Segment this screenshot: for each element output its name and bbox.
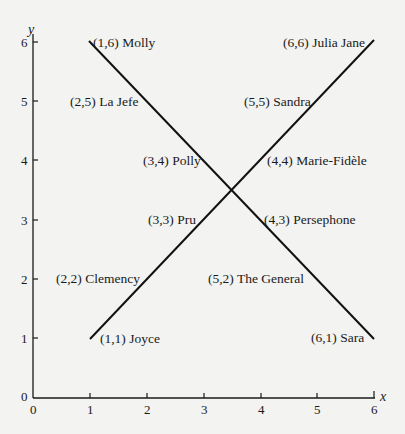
x-tick-4: 4 xyxy=(258,402,265,417)
label-persephone: (4,3) Persephone xyxy=(264,212,355,227)
point-labels-ascending: (1,1) Joyce (2,2) Clemency (3,3) Pru (4,… xyxy=(56,35,367,346)
point-labels-descending: (1,6) Molly (2,5) La Jefe (3,4) Polly (4… xyxy=(70,35,364,345)
x-tick-labels: 0 1 2 3 4 5 6 xyxy=(30,402,378,417)
label-the-general: (5,2) The General xyxy=(208,271,304,286)
y-tick-2: 2 xyxy=(21,272,28,287)
x-tick-5: 5 xyxy=(314,402,321,417)
label-sara: (6,1) Sara xyxy=(311,330,364,345)
y-tick-5: 5 xyxy=(21,94,28,109)
label-joyce: (1,1) Joyce xyxy=(100,331,160,346)
label-sandra: (5,5) Sandra xyxy=(244,94,311,109)
x-tick-3: 3 xyxy=(201,402,208,417)
x-tick-1: 1 xyxy=(87,402,94,417)
label-clemency: (2,2) Clemency xyxy=(56,271,140,286)
x-ticks xyxy=(90,391,374,398)
y-tick-4: 4 xyxy=(21,153,28,168)
x-tick-6: 6 xyxy=(371,402,378,417)
y-tick-labels: 6 5 4 3 2 1 0 xyxy=(21,35,28,404)
label-marie-fidele: (4,4) Marie-Fidèle xyxy=(267,153,367,168)
label-julia-jane: (6,6) Julia Jane xyxy=(283,35,365,50)
label-pru: (3,3) Pru xyxy=(148,212,196,227)
y-tick-3: 3 xyxy=(21,213,28,228)
x-axis-label: x xyxy=(379,389,387,404)
coordinate-chart: y x 6 5 4 3 2 1 0 0 1 2 3 4 5 6 (1,6) Mo… xyxy=(0,0,405,434)
y-tick-1: 1 xyxy=(21,331,28,346)
y-ticks xyxy=(33,42,38,338)
y-tick-6: 6 xyxy=(21,35,28,50)
y-tick-0: 0 xyxy=(21,389,28,404)
label-la-jefe: (2,5) La Jefe xyxy=(70,94,139,109)
label-polly: (3,4) Polly xyxy=(143,153,201,168)
x-tick-0: 0 xyxy=(30,402,37,417)
x-tick-2: 2 xyxy=(144,402,151,417)
label-molly: (1,6) Molly xyxy=(93,35,155,50)
